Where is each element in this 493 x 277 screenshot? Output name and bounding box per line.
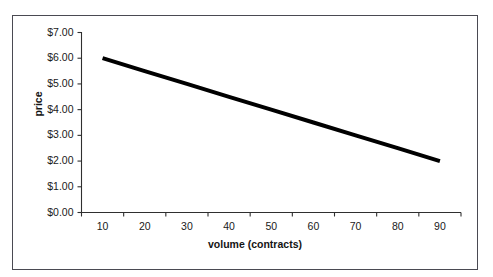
x-axis-tick-label: 90 [425,221,455,232]
x-axis-tick-label: 60 [298,221,328,232]
y-axis-ticks [78,33,82,213]
y-axis-tick-label: $6.00 [28,52,74,63]
x-axis-tick-label: 40 [214,221,244,232]
data-series-group [103,58,440,161]
axes-group [81,32,461,213]
y-axis-tick-label: $3.00 [28,129,74,140]
y-axis-tick-label: $2.00 [28,155,74,166]
x-axis-title: volume (contracts) [155,238,355,250]
x-axis-tick-label: 80 [383,221,413,232]
y-axis-tick-label: $0.00 [28,207,74,218]
x-axis-tick-label: 50 [256,221,286,232]
x-axis-ticks [82,213,462,217]
x-axis-tick-label: 10 [88,221,118,232]
x-axis-tick-label: 30 [172,221,202,232]
x-axis-tick-label: 70 [341,221,371,232]
chart-figure: $0.00$1.00$2.00$3.00$4.00$5.00$6.00$7.00… [0,0,493,277]
y-axis-tick-label: $1.00 [28,181,74,192]
price-line-series [103,58,440,161]
y-axis-tick-label: $7.00 [28,27,74,38]
y-axis-title: price [32,79,44,129]
x-axis-tick-label: 20 [130,221,160,232]
